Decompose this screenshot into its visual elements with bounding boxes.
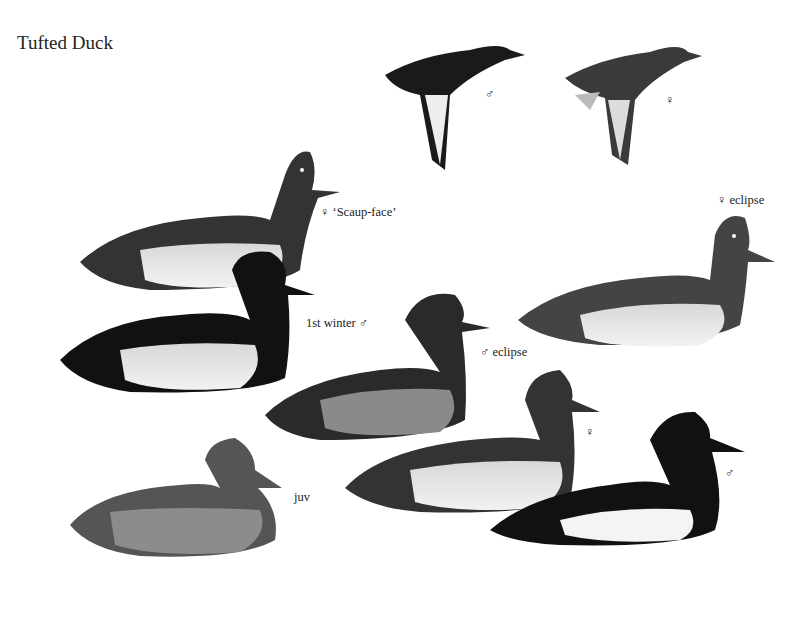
duck-juvenile [70,438,282,557]
duck-female-eclipse [518,216,775,346]
label-female: ♀ [585,425,594,440]
duck-flying-male [385,46,525,170]
label-first-winter-male: 1st winter ♂ [306,316,368,331]
label-flying-male: ♂ [485,87,494,102]
duck-flying-female [565,47,702,165]
label-juvenile: juv [294,490,310,505]
duck-scaup-face-female [80,151,340,290]
label-female-eclipse: ♀ eclipse [717,193,764,208]
label-male: ♂ [725,466,734,481]
label-male-eclipse: ♂ eclipse [480,345,527,360]
label-flying-female: ♀ [665,93,674,108]
duck-illustration [0,0,810,640]
label-scaup-face: ♀ ‘Scaup-face’ [320,205,396,220]
duck-male-eclipse [265,294,490,440]
